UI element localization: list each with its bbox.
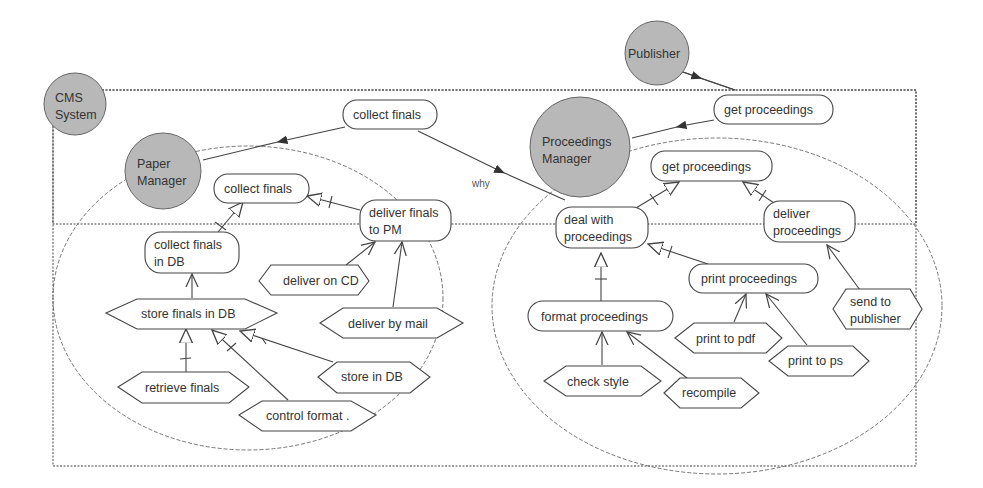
link-deliver-proc-to-get (743, 182, 774, 203)
actor-proceedings-manager-label-2: Manager (542, 152, 591, 166)
goal-model-diagram: why CMS System Paper Manager Proceedings… (0, 0, 983, 488)
goal-label: deliver (773, 207, 810, 221)
actor-cms-system[interactable]: CMS System (44, 73, 106, 135)
task-recompile[interactable]: recompile (664, 378, 759, 408)
actor-cms-label-1: CMS (55, 91, 83, 105)
goal-label: proceedings (564, 230, 632, 244)
link-get-proceedings-pm (632, 120, 714, 138)
goal-label: to PM (369, 223, 402, 237)
goal-label: format proceedings (541, 310, 648, 324)
task-label: store finals in DB (141, 307, 235, 321)
link-deliver-pm-to-collect (307, 196, 360, 210)
goal-label: proceedings (773, 224, 841, 238)
why-label: why (471, 178, 490, 189)
task-print-to-ps[interactable]: print to ps (769, 346, 869, 376)
actor-cms-label-2: System (55, 108, 97, 122)
task-print-to-pdf[interactable]: print to pdf (675, 323, 782, 353)
goal-label: collect finals (353, 108, 421, 122)
goal-collect-finals-in-db[interactable]: collect finals in DB (145, 232, 239, 273)
goal-get-proceedings-top[interactable]: get proceedings (714, 95, 833, 124)
actor-paper-manager[interactable]: Paper Manager (125, 133, 201, 209)
goal-label: print proceedings (701, 272, 797, 286)
goal-deliver-finals-to-pm[interactable]: deliver finals to PM (360, 200, 451, 241)
link-mail-to-deliver-pm (393, 242, 402, 307)
task-label: control format . (266, 409, 349, 423)
goal-label: collect finals (224, 182, 292, 196)
actor-paper-manager-label-1: Paper (137, 157, 170, 171)
link-collect-finals-paper-manager (203, 127, 345, 160)
task-label: print to ps (788, 354, 843, 368)
goal-label: get proceedings (724, 103, 813, 117)
task-control-format[interactable]: control format . (239, 401, 376, 431)
task-label: check style (567, 375, 629, 389)
task-deliver-on-cd[interactable]: deliver on CD (259, 265, 369, 295)
task-deliver-by-mail[interactable]: deliver by mail (320, 308, 463, 338)
actor-publisher-label: Publisher (628, 47, 680, 61)
goal-format-proceedings[interactable]: format proceedings (528, 301, 673, 331)
task-label: print to pdf (696, 332, 756, 346)
task-label: deliver on CD (283, 274, 359, 288)
task-check-style[interactable]: check style (544, 366, 661, 396)
actor-paper-manager-label-2: Manager (137, 174, 186, 188)
actor-proceedings-manager[interactable]: Proceedings Manager (530, 97, 630, 197)
goal-deal-with-proceedings[interactable]: deal with proceedings (556, 207, 648, 248)
goal-get-proceedings[interactable]: get proceedings (651, 151, 772, 181)
goal-label: get proceedings (662, 160, 751, 174)
goal-label: collect finals (154, 238, 222, 252)
task-label: deliver by mail (348, 317, 428, 331)
goal-collect-finals[interactable]: collect finals (214, 174, 309, 203)
goal-deliver-proceedings[interactable]: deliver proceedings (764, 201, 855, 242)
goal-label: in DB (154, 255, 185, 269)
link-cd-to-deliver-pm (346, 242, 375, 265)
link-pdf-to-print (734, 294, 746, 322)
goal-label: deal with (564, 213, 613, 227)
task-send-to-publisher[interactable]: send to publisher (833, 289, 922, 329)
task-label: send to (850, 295, 891, 309)
actor-publisher[interactable]: Publisher (625, 21, 689, 85)
task-store-finals-in-db[interactable]: store finals in DB (106, 299, 277, 329)
goal-print-proceedings[interactable]: print proceedings (689, 264, 818, 293)
link-print-to-deal (648, 244, 708, 264)
task-store-in-db[interactable]: store in DB (318, 362, 430, 393)
goal-label: deliver finals (369, 206, 438, 220)
task-retrieve-finals[interactable]: retrieve finals (118, 372, 249, 403)
link-send-to-deliver-proc (827, 245, 860, 290)
task-label: store in DB (341, 370, 403, 384)
goal-collect-finals-top[interactable]: collect finals (343, 100, 437, 129)
task-label: retrieve finals (145, 381, 219, 395)
task-label: publisher (850, 312, 901, 326)
actor-proceedings-manager-label-1: Proceedings (542, 135, 612, 149)
link-store-db-to-store (240, 331, 333, 362)
task-label: recompile (682, 386, 736, 400)
